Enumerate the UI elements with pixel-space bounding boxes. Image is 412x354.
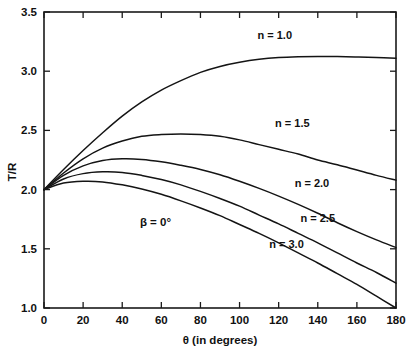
y-tick-label: 1.0 [21, 302, 37, 314]
line-chart: 020406080100120140160180 1.01.52.02.53.0… [0, 0, 412, 354]
curve-label: n = 3.0 [269, 238, 304, 250]
curve-label: n = 2.0 [295, 177, 330, 189]
y-tick-label: 2.0 [21, 184, 37, 196]
x-tick-label: 60 [155, 314, 168, 326]
y-tick-label: 3.0 [21, 65, 37, 77]
y-axis-title: T/R [6, 162, 18, 181]
x-tick-label: 120 [269, 314, 288, 326]
x-tick-label: 160 [347, 314, 366, 326]
x-tick-label: 100 [230, 314, 249, 326]
x-tick-label: 80 [194, 314, 207, 326]
x-axis-title: θ (in degrees) [183, 334, 258, 346]
x-tick-label: 40 [116, 314, 129, 326]
x-tick-label: 140 [308, 314, 327, 326]
chart-annotations: β = 0° [140, 216, 172, 228]
curve-label: n = 2.5 [301, 212, 336, 224]
x-tick-label: 180 [386, 314, 405, 326]
y-tick-label: 2.5 [21, 124, 38, 136]
x-tick-label: 20 [77, 314, 90, 326]
chart-figure: 020406080100120140160180 1.01.52.02.53.0… [0, 0, 412, 354]
curve-label: n = 1.0 [257, 29, 292, 41]
y-tick-label: 3.5 [21, 6, 38, 18]
chart-annotation: β = 0° [140, 216, 172, 228]
y-tick-label: 1.5 [21, 243, 38, 255]
curve-label: n = 1.5 [275, 117, 310, 129]
x-tick-label: 0 [41, 314, 47, 326]
